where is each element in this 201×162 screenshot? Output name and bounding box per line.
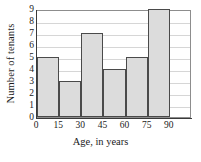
y-axis-title: Number of tenants	[0, 0, 22, 126]
bar	[126, 57, 148, 117]
y-axis-title-text: Number of tenants	[6, 23, 17, 103]
plot-area	[36, 10, 191, 118]
bar	[37, 57, 59, 117]
x-tick-label: 45	[92, 120, 112, 131]
bar	[81, 33, 103, 117]
y-tick-label: 5	[22, 53, 34, 63]
bar-series	[37, 11, 190, 117]
x-tick-label: 15	[48, 120, 68, 131]
y-tick-label: 1	[22, 101, 34, 111]
histogram-figure: Number of tenants 0123456789 01530456075…	[0, 0, 201, 162]
x-axis-line	[36, 118, 192, 119]
x-axis-title: Age, in years	[0, 136, 201, 147]
x-tick-label: 30	[70, 120, 90, 131]
y-tick-label: 9	[22, 5, 34, 15]
x-tick-label: 60	[115, 120, 135, 131]
y-tick-label: 4	[22, 65, 34, 75]
y-tick-label: 3	[22, 77, 34, 87]
y-tick-label: 8	[22, 17, 34, 27]
y-axis-tick-labels: 0123456789	[22, 10, 35, 118]
x-axis-tick-labels: 0153045607590	[36, 120, 191, 133]
x-tick-label: 75	[137, 120, 157, 131]
bar	[148, 9, 170, 117]
y-tick-label: 6	[22, 41, 34, 51]
x-tick-label: 0	[26, 120, 46, 131]
y-tick-label: 2	[22, 89, 34, 99]
y-axis-line	[36, 10, 37, 119]
y-tick-label: 7	[22, 29, 34, 39]
bar	[59, 81, 81, 117]
x-tick-label: 90	[159, 120, 179, 131]
bar	[103, 69, 125, 117]
